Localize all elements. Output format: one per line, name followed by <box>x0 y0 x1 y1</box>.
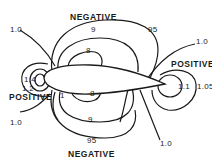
label-top-9: 9 <box>91 26 96 34</box>
label-left-positive: POSITIVE <box>9 93 52 102</box>
label-le-10-top: 1.0 <box>10 26 22 34</box>
airfoil-shape <box>44 65 165 94</box>
label-right-positive: POSITIVE <box>171 60 212 69</box>
label-le-10-bottom: 1.0 <box>10 119 22 127</box>
label-te-10-top: 1.0 <box>196 38 208 46</box>
label-te-11: 1.1 <box>178 83 190 91</box>
label-te-105: 1.05 <box>197 83 212 91</box>
label-le-14: 1.4 <box>24 76 36 84</box>
contour-le-inner <box>35 74 45 86</box>
label-top-95: 95 <box>148 26 158 34</box>
label-bottom-1: 1 <box>60 92 65 100</box>
label-bottom-8: 8 <box>90 90 95 98</box>
label-bottom-negative: NEGATIVE <box>68 150 115 159</box>
contour-le-10-top <box>20 30 55 66</box>
contour-bottom-1 <box>53 92 58 120</box>
contour-te-10-mid <box>120 90 128 122</box>
label-top-negative: NEGATIVE <box>70 13 117 22</box>
airfoil-pressure-contour-diagram: NEGATIVE 9 95 8 8 1 9 95 NEGATIVE 1.0 1.… <box>0 0 212 163</box>
contour-te-10-bottom <box>140 90 160 140</box>
label-te-10-bottom: 1.0 <box>160 140 172 148</box>
label-bottom-9: 9 <box>88 116 93 124</box>
label-top-8: 8 <box>86 47 91 55</box>
label-bottom-95: 95 <box>87 137 97 145</box>
